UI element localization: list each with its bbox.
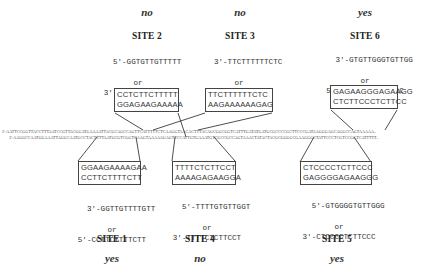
site-5-or: or xyxy=(284,222,394,233)
site-5-duplex-box: CTCCCCTCTTCCC GAGGGGAGAAGGG xyxy=(300,161,372,185)
site-6-duplex-box: GAGAAGGGAGAAGG CTCTTCCCTCTTCC xyxy=(330,85,398,109)
site-5-box-line-2: GAGGGGAGAAGGG xyxy=(303,173,378,182)
site-1-label: SITE 1 xyxy=(72,234,152,244)
site-4-oligos: 5'-TTTTGTGTTGGT or3'-TTTTCTCTTCCT xyxy=(155,191,259,254)
site-5-oligo-1: 5'-GTGGGGTGTTGGG xyxy=(312,202,385,210)
site-2-label: SITE 2 xyxy=(107,31,187,41)
site-1-duplex-box: GGAAGAAAAGAA CCTTCTTTTCTT xyxy=(78,161,141,185)
site-3-box-line-2: AAGAAAAAAGAG xyxy=(208,100,273,109)
site-4-duplex-box: TTTTCTCTTCCT AAAAGAGAAGGA xyxy=(172,161,236,185)
site-6-box-line-1: GAGAAGGGAGAAGG xyxy=(333,87,413,96)
site-2-duplex-box: CCTCTTCTTTTT GGAGAAGAAAAA xyxy=(114,88,179,112)
site-4-or: or xyxy=(155,223,259,234)
site-5-verdict: yes xyxy=(297,252,377,264)
site-6-oligo-1: 3'-GTGTTGGGTGTTGG xyxy=(335,56,412,64)
site-1-box-line-1: GGAAGAAAAGAA xyxy=(81,163,147,172)
triplex-target-sites-figure: 5'-AATTCCGGTTACCTTTAATCCGTTACGGATGAAAATT… xyxy=(0,0,437,273)
site-4-box-line-1: TTTTCTCTTCCT xyxy=(175,163,236,172)
site-5-label: SITE 5 xyxy=(297,234,377,244)
site-1-oligo-1: 3'-GGTTGTTTTGTT xyxy=(87,205,155,213)
site-6-verdict: yes xyxy=(325,6,405,18)
site-4-label: SITE 4 xyxy=(160,234,240,244)
site-3-box-line-1: TTCTTTTTTCTC xyxy=(208,90,268,99)
site-5-box-line-1: CTCCCCTCTTCCC xyxy=(303,163,373,172)
site-4-box-line-2: AAAAGAGAAGGA xyxy=(175,173,241,182)
site-2-verdict: no xyxy=(107,6,187,18)
site-6-box-line-2: CTCTTCCCTCTTCC xyxy=(333,97,407,106)
site-1-box-line-2: CCTTCTTTTCTT xyxy=(81,173,142,182)
site-4-oligo-1: 5'-TTTTGTGTTGGT xyxy=(182,203,250,211)
site-3-or: or xyxy=(187,78,291,89)
dna-top-strand: 5'-AATTCCGGTTACCTTTAATCCGTTACGGATGAAAATT… xyxy=(2,129,376,134)
site-3-verdict: no xyxy=(200,6,280,18)
site-2-oligo-1: 5'-GGTGTTGTTTTT xyxy=(113,58,181,66)
dna-bottom-strand: 3'-AAGGCCAATGGAAATTAGGCAATGCCTACTTTTAATG… xyxy=(9,135,378,140)
site-2-box-line-2: GGAGAAGAAAAA xyxy=(117,100,183,109)
site-3-oligo-1: 3'-TTCTTTTTTCTC xyxy=(214,58,282,66)
site-6-label: SITE 6 xyxy=(325,31,405,41)
site-2-box-line-1: CCTCTTCTTTTT xyxy=(117,90,178,99)
site-3-duplex-box: TTCTTTTTTCTC AAGAAAAAAGAG xyxy=(205,88,273,112)
site-1-oligos: 3'-GGTTGTTTTGTT or5'-CCTTCTTTTCTT xyxy=(62,193,162,256)
site-4-verdict: no xyxy=(160,252,240,264)
site-2-or: or xyxy=(88,78,188,89)
site-3-label: SITE 3 xyxy=(200,31,280,41)
site-1-verdict: yes xyxy=(72,252,152,264)
